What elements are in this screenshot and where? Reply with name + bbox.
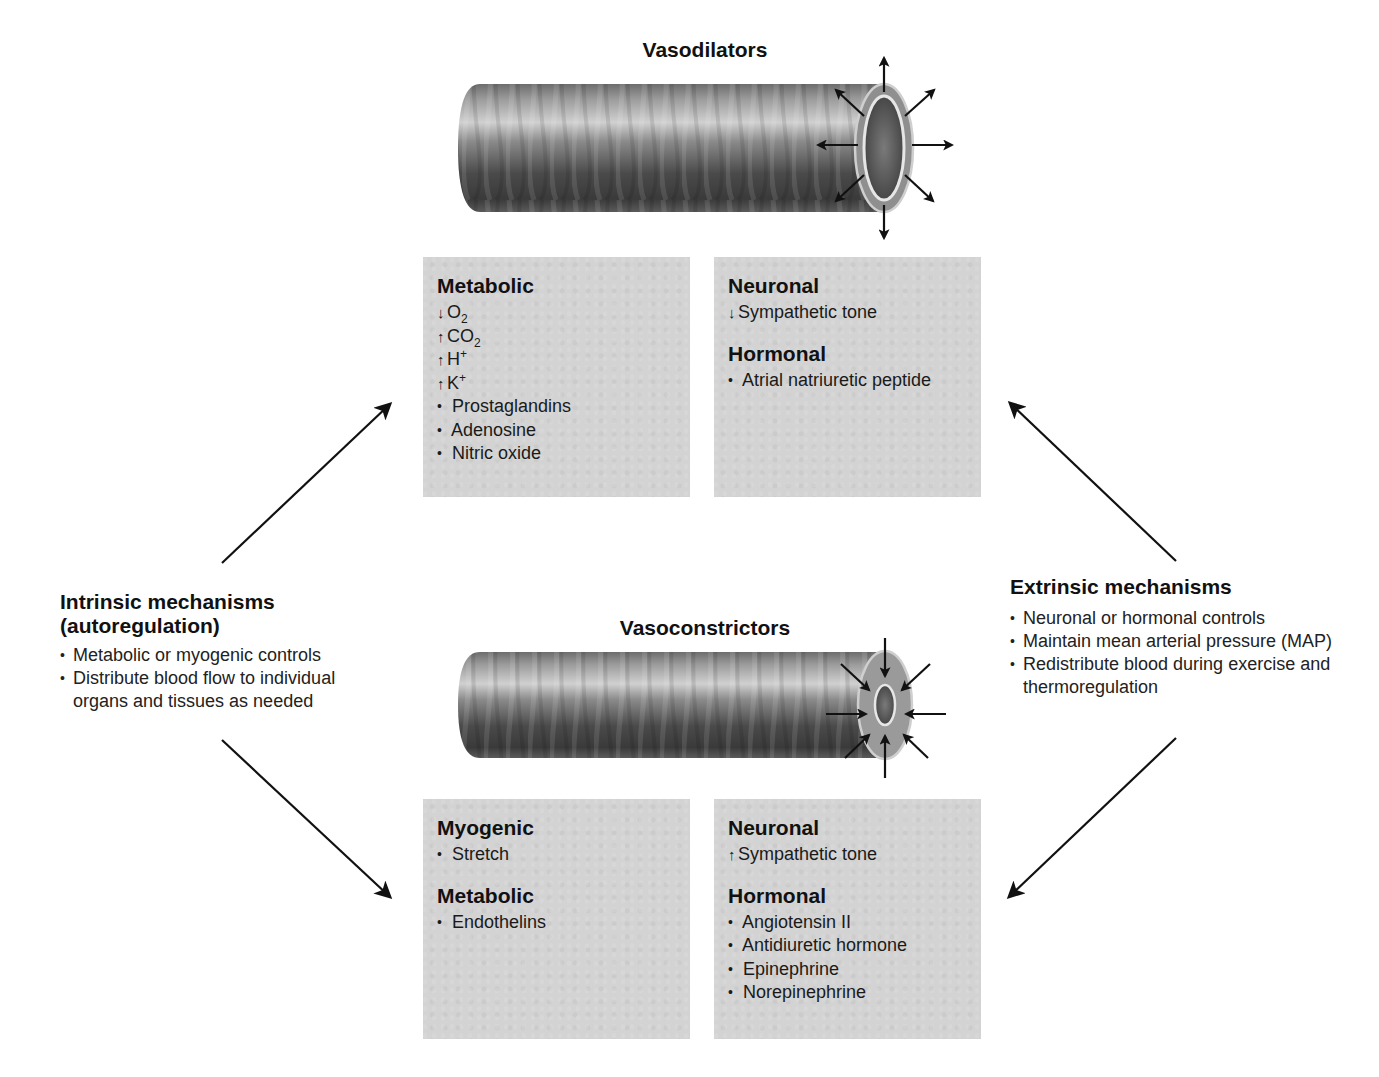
myogenic-section: Myogenic • Stretch [437, 813, 676, 867]
list-item: • Angiotensin II [728, 911, 967, 935]
list-item: ↓O2 [437, 301, 676, 325]
list-item: •Metabolic or myogenic controls [60, 644, 405, 667]
up-arrow-icon: ↑ [437, 325, 447, 349]
section-heading: Myogenic [437, 813, 676, 843]
list-item: • Norepinephrine [728, 981, 967, 1005]
section-heading: Hormonal [728, 339, 967, 369]
metabolic-section: Metabolic • Endothelins [437, 881, 676, 935]
bullet-icon: • [437, 442, 447, 466]
list-item: ↑K+ [437, 372, 676, 396]
list-item: • Nitric oxide [437, 442, 676, 466]
hormonal-section: Hormonal • Angiotensin II • Antidiuretic… [728, 881, 967, 1005]
up-arrow-icon: ↑ [728, 843, 738, 867]
arrow-intrinsic-to-vasoconstrictors [222, 740, 389, 896]
bullet-icon: • [437, 843, 447, 867]
bullet-icon: • [1010, 630, 1023, 653]
bullet-icon: • [728, 369, 738, 393]
constricted-vessel-icon [458, 638, 946, 778]
neuronal-section: Neuronal ↓Sympathetic tone [728, 271, 967, 325]
list-item: • Stretch [437, 843, 676, 867]
dilated-vessel-icon [458, 58, 952, 238]
bullet-icon: • [437, 419, 447, 443]
list-item: •Maintain mean arterial pressure (MAP) [1010, 630, 1333, 653]
intrinsic-title-line2: (autoregulation) [60, 614, 405, 638]
bullet-icon: • [728, 934, 738, 958]
vasodilators-title: Vasodilators [580, 38, 830, 62]
list-item: • Endothelins [437, 911, 676, 935]
intrinsic-title-line1: Intrinsic mechanisms [60, 590, 405, 614]
list-item: ↑H+ [437, 348, 676, 372]
intrinsic-mechanisms-panel: Intrinsic mechanisms (autoregulation) •M… [60, 590, 405, 713]
vasodilator-extrinsic-box: Neuronal ↓Sympathetic tone Hormonal • At… [714, 257, 981, 497]
up-arrow-icon: ↑ [437, 372, 447, 396]
section-heading: Neuronal [728, 271, 967, 301]
section-heading: Metabolic [437, 881, 676, 911]
neuronal-section: Neuronal ↑Sympathetic tone [728, 813, 967, 867]
list-item: ↓Sympathetic tone [728, 301, 967, 325]
extrinsic-mechanisms-panel: Extrinsic mechanisms •Neuronal or hormon… [1010, 575, 1355, 699]
list-item: •Distribute blood flow to individual org… [60, 667, 393, 713]
extrinsic-title: Extrinsic mechanisms [1010, 575, 1355, 599]
section-heading: Hormonal [728, 881, 967, 911]
section-heading: Metabolic [437, 271, 676, 301]
vasoconstrictors-title: Vasoconstrictors [580, 616, 830, 640]
list-item: • Antidiuretic hormone [728, 934, 967, 958]
list-item: • Prostaglandins [437, 395, 676, 419]
bullet-icon: • [437, 911, 447, 935]
bullet-icon: • [1010, 607, 1023, 630]
bullet-icon: • [437, 395, 447, 419]
vasoconstrictor-extrinsic-box: Neuronal ↑Sympathetic tone Hormonal • An… [714, 799, 981, 1039]
bullet-icon: • [60, 644, 73, 667]
list-item: •Neuronal or hormonal controls [1010, 607, 1355, 630]
hormonal-section: Hormonal • Atrial natriuretic peptide [728, 339, 967, 393]
metabolic-section: Metabolic ↓O2 ↑CO2 ↑H+ ↑K+ • Prostagland… [437, 271, 676, 466]
list-item: •Redistribute blood during exercise and … [1010, 653, 1363, 699]
bullet-icon: • [728, 958, 738, 982]
arrow-extrinsic-to-vasodilators [1011, 404, 1176, 561]
section-heading: Neuronal [728, 813, 967, 843]
arrow-extrinsic-to-vasoconstrictors [1010, 738, 1176, 896]
bullet-icon: • [60, 667, 73, 690]
bullet-icon: • [1010, 653, 1023, 676]
list-item: • Epinephrine [728, 958, 967, 982]
up-arrow-icon: ↑ [437, 348, 447, 372]
arrow-intrinsic-to-vasodilators [222, 405, 389, 563]
down-arrow-icon: ↓ [437, 301, 447, 325]
down-arrow-icon: ↓ [728, 301, 738, 325]
bullet-icon: • [728, 911, 738, 935]
vasodilator-intrinsic-box: Metabolic ↓O2 ↑CO2 ↑H+ ↑K+ • Prostagland… [423, 257, 690, 497]
list-item: • Atrial natriuretic peptide [728, 369, 967, 393]
list-item: ↑Sympathetic tone [728, 843, 967, 867]
bullet-icon: • [728, 981, 738, 1005]
vasoconstrictor-intrinsic-box: Myogenic • Stretch Metabolic • Endotheli… [423, 799, 690, 1039]
list-item: • Adenosine [437, 419, 676, 443]
list-item: ↑CO2 [437, 325, 676, 349]
